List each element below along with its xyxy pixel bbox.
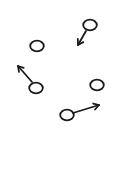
velocity-arrow-shaft	[18, 66, 32, 82]
particle-circle-icon	[29, 83, 43, 94]
particle-p4	[90, 80, 104, 91]
particle-p2	[30, 41, 44, 52]
particle-circle-icon	[30, 41, 44, 52]
particle-p3	[18, 66, 43, 93]
particle-diagram	[0, 0, 114, 178]
particle-circle-icon	[83, 20, 97, 31]
particle-circle-icon	[90, 80, 104, 91]
particle-circle-icon	[60, 110, 74, 121]
particle-p5	[60, 104, 99, 121]
particle-p1	[78, 20, 97, 45]
